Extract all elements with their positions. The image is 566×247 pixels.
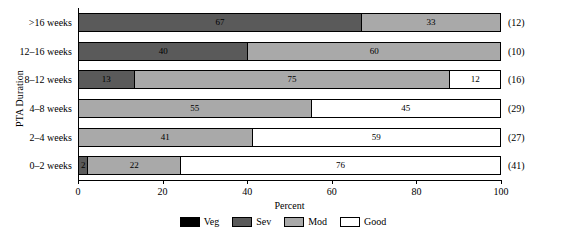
segment-value-label: 76 [336,161,345,170]
x-tick-label: 20 [143,186,183,197]
x-tick-label: 0 [58,186,98,197]
x-tick [163,180,164,184]
chart-row: 8–12 weeks137512(16) [78,70,501,89]
stacked-bar[interactable]: 22276 [78,156,501,175]
x-tick [332,180,333,184]
category-label: 2–4 weeks [30,128,73,147]
stacked-bar[interactable]: 4060 [78,42,501,61]
legend-label: Veg [204,216,220,227]
plot-area: >16 weeks6733(12)12–16 weeks4060(10)8–12… [78,8,501,180]
x-axis-line [78,180,501,181]
bar-segment-mod[interactable]: 41 [79,129,252,146]
x-tick-label: 80 [396,186,436,197]
segment-value-label: 67 [216,18,225,27]
group-count-label: (29) [508,99,525,118]
segment-value-label: 2 [81,161,86,170]
segment-value-label: 41 [161,133,170,142]
chart-row: 4–8 weeks5545(29) [78,99,501,118]
category-label: >16 weeks [29,13,72,32]
y-axis-line [78,8,79,180]
legend-swatch-sev [232,217,252,227]
legend-item-sev[interactable]: Sev [232,216,271,227]
bar-segment-mod[interactable]: 22 [87,157,180,174]
x-tick-label: 40 [227,186,267,197]
segment-value-label: 33 [427,18,436,27]
legend-item-veg[interactable]: Veg [180,216,220,227]
bar-segment-sev[interactable]: 13 [79,71,134,88]
chart-row: 2–4 weeks4159(27) [78,128,501,147]
stacked-bar-chart-figure: PTA Duration >16 weeks6733(12)12–16 week… [0,0,566,247]
bar-segment-mod[interactable]: 55 [79,100,311,117]
group-count-label: (10) [508,42,525,61]
bar-segment-good[interactable]: 59 [252,129,500,146]
chart-row: 0–2 weeks22276(41) [78,156,501,175]
bar-segment-good[interactable]: 45 [311,100,500,117]
legend-item-good[interactable]: Good [340,216,386,227]
legend-label: Mod [308,216,327,227]
stacked-bar[interactable]: 6733 [78,13,501,32]
legend-label: Sev [256,216,271,227]
bar-segment-sev[interactable]: 2 [79,157,87,174]
legend-swatch-mod [284,217,304,227]
chart-row: 12–16 weeks4060(10) [78,42,501,61]
x-tick [501,180,502,184]
segment-value-label: 40 [159,47,168,56]
legend-item-mod[interactable]: Mod [284,216,327,227]
category-label: 8–12 weeks [25,70,73,89]
group-count-label: (16) [508,70,525,89]
bar-segment-sev[interactable]: 67 [79,14,361,31]
x-tick-label: 60 [312,186,352,197]
category-label: 0–2 weeks [30,156,73,175]
x-tick [247,180,248,184]
x-axis-title: Percent [78,200,501,211]
bar-segment-sev[interactable]: 40 [79,43,247,60]
group-count-label: (12) [508,13,525,32]
stacked-bar[interactable]: 5545 [78,99,501,118]
category-label: 4–8 weeks [30,99,73,118]
bar-segment-good[interactable]: 76 [180,157,500,174]
stacked-bar[interactable]: 137512 [78,70,501,89]
y-axis-title: PTA Duration [14,49,25,149]
segment-value-label: 75 [288,75,297,84]
segment-value-label: 22 [130,161,139,170]
segment-value-label: 59 [372,133,381,142]
legend-swatch-good [340,217,360,227]
chart-legend: VegSevModGood [0,216,566,227]
segment-value-label: 55 [190,104,199,113]
bar-segment-mod[interactable]: 33 [361,14,500,31]
group-count-label: (27) [508,128,525,147]
chart-row: >16 weeks6733(12) [78,13,501,32]
group-count-label: (41) [508,156,525,175]
legend-label: Good [364,216,386,227]
bar-segment-mod[interactable]: 60 [247,43,500,60]
x-tick-label: 100 [481,186,521,197]
segment-value-label: 13 [102,75,111,84]
bar-segment-mod[interactable]: 75 [134,71,450,88]
segment-value-label: 12 [471,75,480,84]
bar-segment-good[interactable]: 12 [449,71,500,88]
legend-swatch-veg [180,217,200,227]
x-tick [78,180,79,184]
x-tick [416,180,417,184]
segment-value-label: 45 [401,104,410,113]
stacked-bar[interactable]: 4159 [78,128,501,147]
segment-value-label: 60 [370,47,379,56]
category-label: 12–16 weeks [20,42,73,61]
